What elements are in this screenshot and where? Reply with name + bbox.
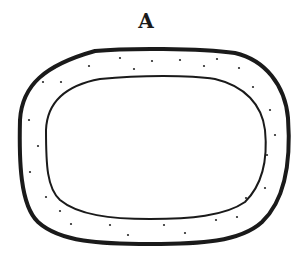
dot [274, 134, 276, 136]
dot [37, 145, 39, 147]
dot [179, 59, 181, 61]
dot [215, 219, 217, 221]
dot [119, 57, 121, 59]
dots-group [28, 57, 276, 236]
dot [203, 65, 205, 67]
dot [59, 210, 61, 212]
inner-boundary [46, 76, 266, 219]
dot [60, 81, 62, 83]
dot [236, 216, 238, 218]
dot [42, 81, 44, 83]
dot [133, 68, 135, 70]
diagram-figure [0, 0, 304, 260]
dot [127, 234, 129, 236]
dot [163, 224, 165, 226]
dot [45, 196, 47, 198]
dot [216, 58, 218, 60]
dot [252, 86, 254, 88]
dot [245, 197, 247, 199]
dot [109, 224, 111, 226]
dot [269, 109, 271, 111]
dot [28, 119, 30, 121]
dot [238, 67, 240, 69]
dot [88, 65, 90, 67]
dot [264, 187, 266, 189]
dot [29, 171, 31, 173]
dot [266, 154, 268, 156]
dot [184, 232, 186, 234]
outer-boundary [20, 49, 289, 244]
dot [151, 60, 153, 62]
dot [70, 223, 72, 225]
